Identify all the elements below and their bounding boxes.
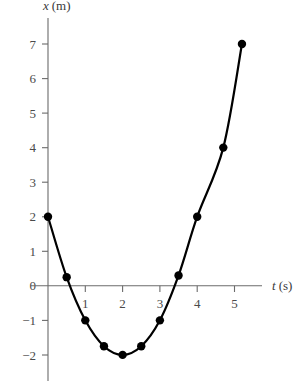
y-axis-title-var: x [42,0,49,13]
x-tick-label-5: 5 [231,296,238,311]
data-point [118,351,126,359]
x-tick-label-4: 4 [194,296,201,311]
y-axis-title: x(m) [42,0,71,13]
data-point [137,342,145,350]
y-axis-title-unit: (m) [52,0,71,13]
y-tick-label-4: 4 [30,140,37,155]
x-axis-title-unit: (s) [279,278,293,293]
data-point [100,342,108,350]
x-axis-title: t(s) [272,278,292,293]
data-point [193,213,201,221]
data-point [174,271,182,279]
data-point [219,143,227,151]
position-time-graph: 7 6 5 4 3 2 1 0 −1 −2 x(m) [0,0,307,381]
y-tick-label-2: 2 [30,209,37,224]
data-point [156,316,164,324]
data-point [238,40,246,48]
data-point [44,213,52,221]
x-tick-label-3: 3 [157,296,164,311]
data-point [62,273,70,281]
x-tick-label-2: 2 [119,296,126,311]
data-point [81,316,89,324]
y-tick-label-1: 1 [30,244,37,259]
y-tick-label-minus2: −2 [22,348,36,363]
x-tick-label-1: 1 [82,296,89,311]
chart-svg: 7 6 5 4 3 2 1 0 −1 −2 x(m) [0,0,307,381]
y-tick-label-3: 3 [30,175,37,190]
x-axis-title-var: t [272,278,276,293]
y-tick-label-5: 5 [30,106,37,121]
chart-background [0,0,307,381]
y-tick-label-6: 6 [30,71,37,86]
y-tick-label-minus1: −1 [22,313,36,328]
y-tick-label-7: 7 [30,37,37,52]
